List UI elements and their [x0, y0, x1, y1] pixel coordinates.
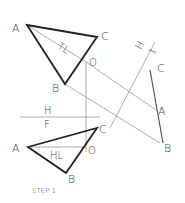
horizontal-line-label: HL: [50, 150, 64, 161]
front-label-o: O: [88, 145, 96, 156]
projector-to-edge-a: [86, 62, 156, 110]
projector-to-edge-b: [65, 84, 160, 143]
true-length-label: TL: [56, 40, 72, 56]
descriptive-geometry-drawing: A C B O TL H 1 C A B H F A C B O HL STEP…: [0, 0, 185, 203]
top-label-o: O: [89, 57, 97, 68]
fold-hf-upper-label: H: [44, 105, 52, 116]
front-label-c: C: [99, 123, 107, 136]
fold-h1-upper-label: H: [133, 39, 146, 51]
top-label-c: C: [101, 30, 109, 43]
top-label-b: B: [52, 82, 59, 95]
front-label-b: B: [68, 173, 75, 186]
step-title: STEP 1: [32, 187, 56, 195]
edge-label-a: A: [158, 105, 166, 118]
front-label-a: A: [12, 142, 20, 155]
fold-line-h1: [110, 42, 155, 128]
edge-label-b: B: [164, 142, 171, 155]
top-view-triangle: [27, 25, 97, 84]
top-label-a: A: [12, 22, 20, 35]
edge-label-c: C: [157, 62, 165, 75]
fold-hf-lower-label: F: [44, 119, 50, 130]
